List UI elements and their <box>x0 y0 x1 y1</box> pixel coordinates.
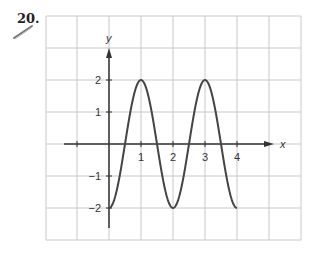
svg-text:4: 4 <box>234 151 240 163</box>
svg-text:1: 1 <box>138 151 144 163</box>
svg-text:−1: −1 <box>88 170 101 182</box>
chart: 123421−1−2xy <box>0 0 319 260</box>
svg-text:−2: −2 <box>88 202 101 214</box>
svg-text:2: 2 <box>95 74 101 86</box>
svg-text:x: x <box>279 138 286 150</box>
svg-text:2: 2 <box>170 151 176 163</box>
grid <box>46 16 301 240</box>
svg-text:3: 3 <box>202 151 208 163</box>
svg-text:1: 1 <box>95 106 101 118</box>
svg-text:y: y <box>105 32 113 44</box>
